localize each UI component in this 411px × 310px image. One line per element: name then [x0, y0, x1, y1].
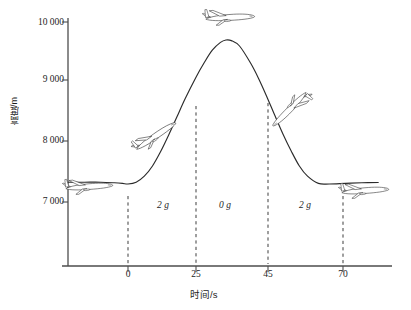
airplane-descending	[268, 86, 315, 133]
zero-g-parabolic-flight-chart: 高度/m 10 000 9 000 8 000 7 000 0 25 45 70…	[0, 0, 411, 310]
airplane-apex	[202, 7, 255, 26]
altitude-profile-curve	[68, 40, 378, 184]
airplane-level-left	[62, 176, 113, 195]
airplane-climbing	[129, 115, 179, 156]
plot-area	[0, 0, 411, 310]
